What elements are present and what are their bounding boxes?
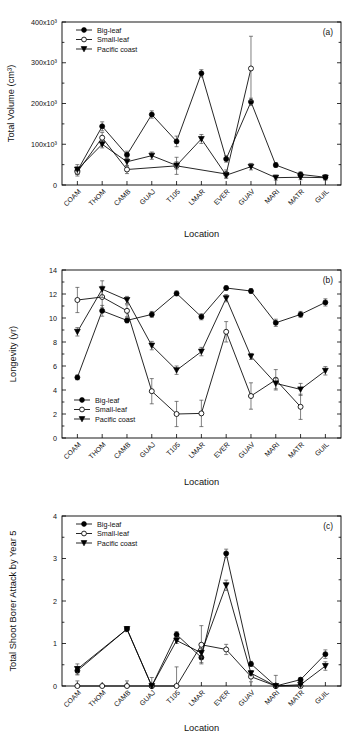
marker-filled-triangle <box>322 368 328 373</box>
legend-marker-filled-circle <box>82 522 87 527</box>
marker-filled-circle <box>75 375 80 380</box>
x-tick-label-mari: MARI <box>263 689 280 706</box>
marker-filled-triangle <box>99 287 105 292</box>
x-tick-label-guaj: GUAJ <box>138 689 156 707</box>
marker-open-circle <box>149 389 154 394</box>
legend-label-small-leaf: Small-leaf <box>97 35 129 44</box>
y-tick-label: 8 <box>53 338 57 347</box>
y-tick-label: 0 <box>53 181 57 190</box>
legend-label-pacific-coast: Pacific coast <box>97 539 137 548</box>
marker-open-circle <box>124 167 129 172</box>
legend-marker-filled-circle <box>80 398 85 403</box>
legend-label-pacific-coast: Pacific coast <box>97 45 137 54</box>
marker-filled-triangle <box>223 296 229 301</box>
x-axis-title: Location <box>184 229 219 239</box>
chart-legend: Big-leafSmall-leafPacific coast <box>74 396 135 424</box>
legend-marker-open-circle <box>82 37 87 42</box>
y-axis-title: Total Shoot Borer Attack by Year 5 <box>8 530 18 671</box>
marker-open-circle <box>75 684 80 689</box>
marker-open-circle <box>298 404 303 409</box>
marker-open-circle <box>75 298 80 303</box>
y-tick-label: 4 <box>53 386 57 395</box>
x-tick-label-coam: COAM <box>62 441 82 461</box>
x-tick-label-guil: GUIL <box>314 188 331 205</box>
panel-tag: (a) <box>323 27 333 37</box>
x-tick-label-mari: MARI <box>263 441 280 458</box>
y-tick-label: 100x10³ <box>31 140 58 149</box>
x-tick-label-guaj: GUAJ <box>138 188 156 206</box>
y-tick-label: 14 <box>49 266 57 275</box>
y-tick-label: 3 <box>53 554 57 563</box>
x-axis-title: Location <box>184 477 219 487</box>
legend-label-small-leaf: Small-leaf <box>97 529 129 538</box>
y-tick-label: 2 <box>53 410 57 419</box>
marker-filled-circle <box>149 312 154 317</box>
marker-filled-circle <box>149 112 154 117</box>
marker-filled-circle <box>298 677 303 682</box>
marker-filled-triangle <box>198 650 204 655</box>
figure-container: 0100x10³200x10³300x10³400x10³COAMTHOMCAM… <box>0 0 354 736</box>
x-tick-label-camb: CAMB <box>112 188 131 207</box>
marker-open-circle <box>224 647 229 652</box>
marker-open-circle <box>199 642 204 647</box>
marker-open-circle <box>248 394 253 399</box>
marker-filled-circle <box>100 124 105 129</box>
marker-open-circle <box>199 411 204 416</box>
x-tick-label-thom: THOM <box>87 689 107 709</box>
marker-filled-circle <box>224 286 229 291</box>
marker-filled-circle <box>199 71 204 76</box>
marker-filled-circle <box>298 312 303 317</box>
marker-open-circle <box>124 684 129 689</box>
x-tick-label-guav: GUAV <box>237 689 256 708</box>
series-line-pacific-coast <box>77 139 325 178</box>
marker-open-circle <box>124 308 129 313</box>
x-tick-label-t105: T105 <box>165 689 181 705</box>
x-tick-label-ever: EVER <box>212 689 230 707</box>
y-tick-label: 4 <box>53 512 57 521</box>
x-tick-label-coam: COAM <box>62 689 82 709</box>
marker-filled-triangle <box>174 368 180 373</box>
y-tick-label: 400x10³ <box>31 18 58 27</box>
y-tick-label: 6 <box>53 362 57 371</box>
y-tick-label: 10 <box>49 314 57 323</box>
chart-svg-b: 02468101214COAMTHOMCAMBGUAJT105LMAREVERG… <box>0 242 354 490</box>
marker-filled-triangle <box>124 298 130 303</box>
y-tick-label: 12 <box>49 290 57 299</box>
marker-filled-triangle <box>74 329 80 334</box>
x-tick-label-matr: MATR <box>287 689 306 708</box>
legend-label-small-leaf: Small-leaf <box>95 405 127 414</box>
marker-filled-circle <box>224 551 229 556</box>
y-tick-label: 300x10³ <box>31 58 58 67</box>
marker-open-circle <box>224 329 229 334</box>
chart-panel-a: 0100x10³200x10³300x10³400x10³COAMTHOMCAM… <box>0 0 354 242</box>
marker-filled-circle <box>323 652 328 657</box>
marker-filled-circle <box>224 156 229 161</box>
legend-marker-open-circle <box>80 407 85 412</box>
x-tick-label-t105: T105 <box>165 441 181 457</box>
chart-legend: Big-leafSmall-leafPacific coast <box>76 26 137 54</box>
legend-label-big-leaf: Big-leaf <box>95 396 119 405</box>
x-tick-label-guaj: GUAJ <box>138 441 156 459</box>
marker-filled-triangle <box>223 583 229 588</box>
series-line-big-leaf <box>77 288 325 377</box>
x-tick-label-ever: EVER <box>212 188 230 206</box>
marker-filled-circle <box>273 163 278 168</box>
marker-open-circle <box>174 684 179 689</box>
x-tick-label-camb: CAMB <box>112 689 131 708</box>
y-tick-label: 0 <box>53 682 57 691</box>
series-line-big-leaf <box>77 73 325 177</box>
x-tick-label-ever: EVER <box>212 441 230 459</box>
marker-open-circle <box>174 412 179 417</box>
x-tick-label-camb: CAMB <box>112 441 131 460</box>
x-tick-label-lmar: LMAR <box>187 188 206 207</box>
x-tick-label-mari: MARI <box>263 188 280 205</box>
marker-filled-circle <box>124 152 129 157</box>
marker-filled-triangle <box>322 664 328 669</box>
marker-filled-triangle <box>174 638 180 643</box>
marker-filled-circle <box>248 289 253 294</box>
panel-tag: (c) <box>323 521 333 531</box>
y-axis-title: Longevity (yr) <box>8 326 18 382</box>
x-tick-label-lmar: LMAR <box>187 441 206 460</box>
marker-filled-circle <box>323 300 328 305</box>
y-tick-label: 1 <box>53 639 57 648</box>
